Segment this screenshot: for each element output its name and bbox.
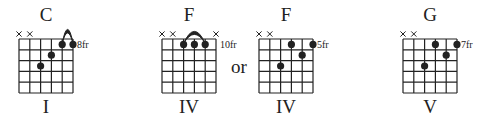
finger-dot <box>180 41 187 48</box>
roman-numeral: IV <box>179 96 199 118</box>
finger-dot <box>432 41 439 48</box>
finger-dot <box>69 41 76 48</box>
chord-name: C <box>40 4 53 26</box>
muted-string-x-icon <box>400 31 405 36</box>
chord-name: F <box>281 4 292 26</box>
or-separator: or <box>231 56 247 78</box>
fret-position-label: 10fr <box>220 39 237 50</box>
muted-string-x-icon <box>159 31 164 36</box>
finger-dot <box>37 62 44 69</box>
finger-dot <box>309 41 316 48</box>
finger-dot <box>288 41 295 48</box>
chord-name: F <box>184 4 195 26</box>
finger-dot <box>443 52 450 59</box>
finger-dot <box>59 41 66 48</box>
muted-string-x-icon <box>256 31 261 36</box>
finger-dot <box>277 62 284 69</box>
finger-dot <box>421 62 428 69</box>
fret-position-label: 5fr <box>317 39 329 50</box>
finger-dot <box>202 41 209 48</box>
finger-dot <box>191 41 198 48</box>
fret-position-label: 8fr <box>77 39 89 50</box>
muted-string-x-icon <box>213 31 218 36</box>
roman-numeral: I <box>43 96 49 118</box>
finger-dot <box>299 52 306 59</box>
chord-name: G <box>423 4 437 26</box>
muted-string-x-icon <box>267 31 272 36</box>
muted-string-x-icon <box>170 31 175 36</box>
finger-dot <box>48 52 55 59</box>
roman-numeral: IV <box>276 96 296 118</box>
fret-position-label: 7fr <box>461 39 473 50</box>
muted-string-x-icon <box>27 31 32 36</box>
finger-dot <box>453 41 460 48</box>
muted-string-x-icon <box>16 31 21 36</box>
roman-numeral: V <box>423 96 437 118</box>
muted-string-x-icon <box>411 31 416 36</box>
